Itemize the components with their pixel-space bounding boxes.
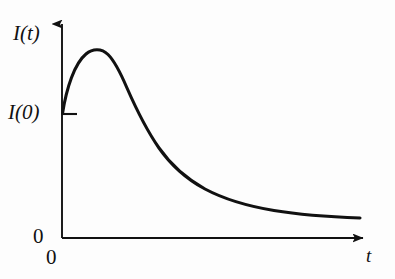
initial-value-label: I(0) xyxy=(8,102,39,123)
infection-curve xyxy=(63,50,361,218)
y-axis-label: I(t) xyxy=(13,23,40,44)
infection-curve-figure: I(t) I(0) 0 0 t xyxy=(0,0,395,279)
plot-canvas xyxy=(0,0,395,279)
y-axis-origin-label: 0 xyxy=(33,226,44,247)
x-axis-label: t xyxy=(366,246,371,265)
x-axis-origin-label: 0 xyxy=(46,247,57,268)
